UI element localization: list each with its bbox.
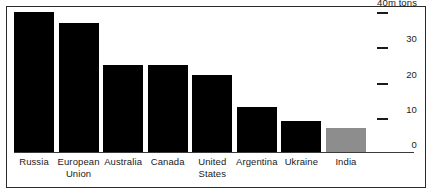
- category-label-canada: Canada: [144, 156, 192, 186]
- axis-tick-label-10: 10: [406, 104, 417, 115]
- category-label-european-union: European Union: [55, 156, 103, 186]
- bar-argentina: [237, 107, 277, 153]
- axis-tick-label-30: 30: [406, 33, 417, 44]
- category-label-argentina-line1: Argentina: [236, 156, 278, 167]
- axis-tick-label-40: 40m tons: [377, 0, 417, 8]
- bar-australia: [103, 65, 143, 153]
- x-axis-baseline: [14, 152, 414, 153]
- bar-russia: [14, 12, 54, 153]
- category-label-european-union-line2: Union: [55, 168, 103, 180]
- bar-slot-united-states: [192, 12, 232, 153]
- bar-ukraine: [281, 121, 321, 153]
- category-axis-labels: Russia European Union Australia Canada U…: [14, 156, 366, 186]
- bar-slot-india: [326, 12, 366, 153]
- bar-slot-australia: [103, 12, 143, 153]
- category-label-russia-line1: Russia: [19, 156, 49, 167]
- bar-united-states: [192, 75, 232, 153]
- axis-tick-mark-10: [377, 118, 388, 120]
- plot-area: [14, 12, 366, 153]
- category-label-ukraine: Ukraine: [277, 156, 325, 186]
- bar-slot-canada: [148, 12, 188, 153]
- category-label-ukraine-line1: Ukraine: [285, 156, 318, 167]
- category-label-european-union-line1: European: [58, 156, 100, 167]
- bar-slot-european-union: [59, 12, 99, 153]
- bar-canada: [148, 65, 188, 153]
- axis-tick-mark-20: [377, 83, 388, 85]
- bar-slot-ukraine: [281, 12, 321, 153]
- category-label-united-states-line2: States: [188, 168, 236, 180]
- category-label-australia: Australia: [99, 156, 147, 186]
- category-label-argentina: Argentina: [233, 156, 281, 186]
- category-label-russia: Russia: [10, 156, 58, 186]
- bar-slot-argentina: [237, 12, 277, 153]
- category-label-united-states-line1: United: [198, 156, 226, 167]
- value-axis: 40m tons 30 20 10 0: [370, 12, 418, 154]
- bar-slot-russia: [14, 12, 54, 153]
- category-label-india-line1: India: [335, 156, 356, 167]
- axis-tick-label-0: 0: [412, 139, 417, 150]
- axis-tick-mark-30: [377, 47, 388, 49]
- bars-layer: [14, 12, 366, 153]
- category-label-united-states: United States: [188, 156, 236, 186]
- bar-chart-figure: 40m tons 30 20 10 0 Russia European Unio…: [0, 0, 432, 195]
- category-label-australia-line1: Australia: [104, 156, 142, 167]
- axis-tick-label-20: 20: [406, 69, 417, 80]
- category-label-india: India: [322, 156, 370, 186]
- bar-india: [326, 128, 366, 153]
- axis-tick-mark-40: [377, 12, 388, 14]
- bar-european-union: [59, 23, 99, 153]
- category-label-canada-line1: Canada: [151, 156, 185, 167]
